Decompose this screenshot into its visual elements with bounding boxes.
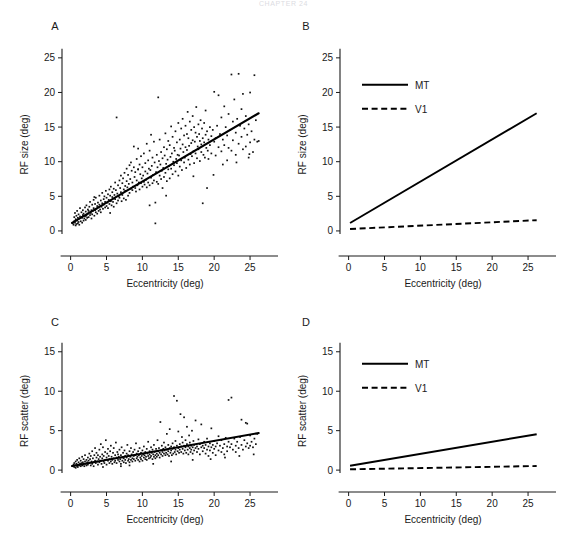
data-point: [249, 92, 251, 94]
data-point: [126, 453, 128, 455]
data-point: [117, 200, 119, 202]
data-point: [76, 215, 78, 217]
data-point: [141, 178, 143, 180]
data-point: [235, 451, 237, 453]
data-point: [119, 180, 121, 182]
data-point: [165, 446, 167, 448]
data-point: [152, 463, 154, 465]
data-point: [84, 207, 86, 209]
data-point: [132, 451, 134, 453]
y-tick-label: 5: [327, 191, 333, 202]
data-point: [114, 460, 116, 462]
data-point: [202, 450, 204, 452]
data-point: [170, 156, 172, 158]
data-point: [199, 454, 201, 456]
data-point: [231, 74, 233, 76]
data-point: [167, 159, 169, 161]
data-point: [88, 460, 90, 462]
data-point: [120, 175, 122, 177]
data-point: [199, 160, 201, 162]
data-point: [91, 218, 93, 220]
data-point: [85, 219, 87, 221]
data-point: [125, 199, 127, 201]
y-tick-label: 20: [44, 87, 56, 98]
data-point: [215, 446, 217, 448]
data-point: [159, 175, 161, 177]
data-point: [146, 187, 148, 189]
data-point: [93, 196, 95, 198]
data-point: [137, 169, 139, 171]
data-point: [100, 443, 102, 445]
data-point: [199, 140, 201, 142]
data-point: [149, 454, 151, 456]
data-point: [146, 448, 148, 450]
data-point: [186, 426, 188, 428]
data-point: [134, 171, 136, 173]
data-point: [141, 455, 143, 457]
data-point: [86, 459, 88, 461]
data-point: [111, 456, 113, 458]
x-tick-label: 15: [173, 498, 185, 509]
data-point: [245, 115, 247, 117]
data-point: [73, 216, 75, 218]
data-point: [232, 139, 234, 141]
data-point: [223, 144, 225, 146]
data-point: [89, 201, 91, 203]
data-point: [160, 421, 162, 423]
data-point: [196, 157, 198, 159]
y-tick-label: 15: [44, 346, 56, 357]
data-point: [165, 195, 167, 197]
data-point: [156, 456, 158, 458]
x-tick-label: 10: [415, 498, 427, 509]
data-point: [109, 203, 111, 205]
data-point: [126, 168, 128, 170]
data-point: [215, 454, 217, 456]
data-point: [147, 455, 149, 457]
data-point: [168, 455, 170, 457]
data-point: [213, 141, 215, 143]
data-point: [223, 106, 225, 108]
data-point: [182, 144, 184, 146]
data-point: [193, 126, 195, 128]
data-point: [146, 459, 148, 461]
data-point: [171, 454, 173, 456]
data-point: [181, 436, 183, 438]
y-tick-label: 15: [322, 122, 334, 133]
data-point: [111, 196, 113, 198]
data-point: [100, 211, 102, 213]
data-point: [205, 453, 207, 455]
data-point: [116, 193, 118, 195]
data-point: [189, 121, 191, 123]
x-tick-label: 10: [415, 262, 427, 273]
y-axis-title: RF size (deg): [19, 114, 30, 174]
data-point: [152, 458, 154, 460]
figure-container: CHAPTER 24 A05101520250510152025Eccentri…: [0, 0, 567, 534]
data-point: [246, 423, 248, 425]
data-point: [114, 461, 116, 463]
data-point: [159, 139, 161, 141]
data-point: [197, 146, 199, 148]
data-point: [170, 168, 172, 170]
data-point: [119, 461, 121, 463]
data-point: [150, 455, 152, 457]
data-point: [182, 448, 184, 450]
data-point: [109, 212, 111, 214]
data-point: [171, 153, 173, 155]
data-point: [142, 166, 144, 168]
y-tick-label: 10: [44, 386, 56, 397]
data-point: [142, 186, 144, 188]
data-point: [233, 99, 235, 101]
data-point: [212, 452, 214, 454]
x-tick-label: 20: [487, 262, 499, 273]
data-point: [135, 191, 137, 193]
x-tick-label: 0: [346, 498, 352, 509]
data-point: [195, 420, 197, 422]
data-point: [205, 134, 207, 136]
data-point: [173, 395, 175, 397]
data-point: [89, 214, 91, 216]
data-point: [166, 148, 168, 150]
data-point: [142, 175, 144, 177]
data-point: [183, 453, 185, 455]
data-point: [258, 140, 260, 142]
data-point: [235, 445, 237, 447]
